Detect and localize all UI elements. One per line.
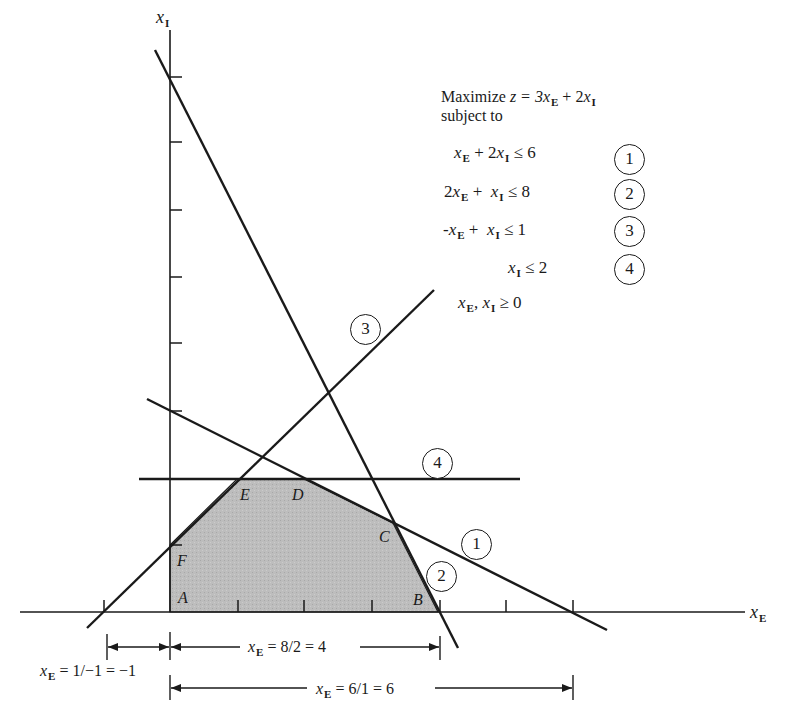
intercept-annotation-6: xE = 6/1 = 6 bbox=[316, 681, 394, 700]
objective: Maximize z = 3xE + 2xI bbox=[441, 89, 596, 108]
constraint-2-marker: 2 bbox=[614, 179, 645, 210]
line-label-1: 1 bbox=[461, 529, 492, 560]
constraint-2: 2xE + xI ≤ 8 bbox=[444, 183, 530, 203]
constraint-4-marker: 4 bbox=[614, 254, 645, 285]
vertex-d-label: D bbox=[292, 486, 304, 504]
vertex-c-label: C bbox=[379, 528, 390, 546]
line-label-2: 2 bbox=[426, 561, 457, 592]
line-label-4: 4 bbox=[422, 448, 453, 479]
lp-graph bbox=[0, 0, 789, 718]
intercept-annotation-neg1: xE = 1/−1 = −1 bbox=[40, 663, 136, 682]
constraint-4: xI ≤ 2 bbox=[508, 259, 547, 279]
feasible-region bbox=[170, 479, 438, 612]
x-axis-label: xE bbox=[750, 603, 766, 624]
vertex-e-label: E bbox=[240, 486, 250, 504]
constraint-1: xE + 2xI ≤ 6 bbox=[454, 144, 536, 164]
vertex-b-label: B bbox=[413, 591, 423, 609]
line-label-3: 3 bbox=[350, 314, 381, 345]
intercept-annotation-4: xE = 8/2 = 4 bbox=[248, 639, 326, 658]
constraint-1-marker: 1 bbox=[614, 144, 645, 175]
constraint-3-marker: 3 bbox=[614, 216, 645, 247]
constraint-3: -xE + xI ≤ 1 bbox=[443, 221, 526, 241]
nonnegativity: xE, xI ≥ 0 bbox=[458, 294, 522, 314]
vertex-a-label: A bbox=[178, 589, 188, 607]
vertex-f-label: F bbox=[177, 552, 187, 570]
y-axis-label: xI bbox=[156, 8, 169, 29]
y-ticks bbox=[170, 77, 182, 545]
subject-to: subject to bbox=[441, 108, 503, 124]
